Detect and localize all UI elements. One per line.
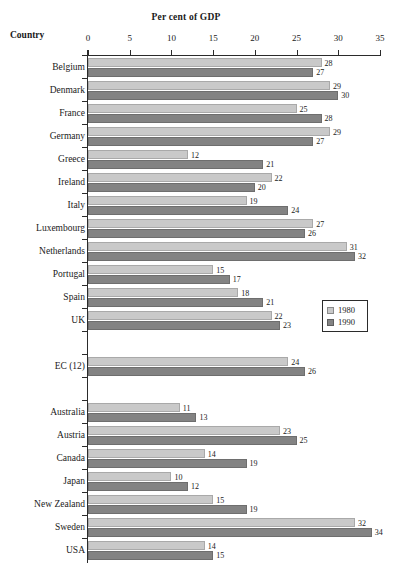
bar-1980 <box>88 403 180 412</box>
bar-1990 <box>88 482 188 491</box>
y-tick-mark <box>82 239 88 240</box>
category-label: Ireland <box>58 177 85 187</box>
x-tick-mark <box>297 50 298 56</box>
bar-1990 <box>88 114 322 123</box>
category-label: Denmark <box>50 85 85 95</box>
bar-value-label: 26 <box>308 367 316 376</box>
bar-1980 <box>88 311 272 320</box>
x-tick-label: 15 <box>209 33 218 43</box>
bar-1990 <box>88 459 247 468</box>
x-tick-label: 10 <box>167 33 176 43</box>
bar-value-label: 22 <box>275 174 283 183</box>
y-tick-mark <box>82 262 88 263</box>
category-label: Italy <box>68 200 85 210</box>
y-tick-mark <box>82 354 88 355</box>
category-label: Netherlands <box>39 246 85 256</box>
x-tick-mark <box>88 50 89 56</box>
bar-1990 <box>88 413 196 422</box>
y-tick-mark <box>82 446 88 447</box>
y-tick-mark <box>82 331 88 332</box>
bar-value-label: 21 <box>266 160 274 169</box>
x-tick-label: 5 <box>127 33 132 43</box>
y-tick-mark <box>82 170 88 171</box>
category-label: Germany <box>50 131 85 141</box>
bar-1980 <box>88 81 330 90</box>
legend-swatch-1990-icon <box>327 319 334 326</box>
category-label: Greece <box>58 154 85 164</box>
bar-1980 <box>88 150 188 159</box>
x-tick-mark <box>380 50 381 56</box>
legend-label-1980: 1980 <box>338 306 355 315</box>
y-tick-mark <box>82 78 88 79</box>
y-tick-mark <box>82 285 88 286</box>
y-tick-mark <box>82 308 88 309</box>
bar-value-label: 19 <box>250 197 258 206</box>
y-tick-mark <box>82 469 88 470</box>
bar-value-label: 18 <box>241 289 249 298</box>
bar-1980 <box>88 104 297 113</box>
bar-1980 <box>88 219 313 228</box>
bar-value-label: 20 <box>258 183 266 192</box>
bar-1990 <box>88 528 372 537</box>
bar-1990 <box>88 298 263 307</box>
bar-value-label: 29 <box>333 128 341 137</box>
y-tick-mark <box>82 377 88 378</box>
chart-title: Per cent of GDP <box>0 12 372 22</box>
bar-1980 <box>88 127 330 136</box>
bar-1990 <box>88 68 313 77</box>
bar-value-label: 34 <box>375 528 383 537</box>
chart-page: Per cent of GDP Country 05101520253035 B… <box>0 0 401 568</box>
bar-1980 <box>88 472 171 481</box>
category-label: Sweden <box>55 522 85 532</box>
category-label: France <box>59 108 85 118</box>
category-label: Canada <box>57 453 86 463</box>
bar-1990 <box>88 229 305 238</box>
bar-1980 <box>88 265 213 274</box>
x-tick-mark <box>213 50 214 56</box>
y-tick-mark <box>82 423 88 424</box>
y-tick-mark <box>82 492 88 493</box>
category-label: Luxembourg <box>36 223 85 233</box>
bar-1980 <box>88 58 322 67</box>
bar-value-label: 13 <box>199 413 207 422</box>
y-tick-mark <box>82 538 88 539</box>
category-label: Australia <box>50 407 85 417</box>
x-tick-mark <box>338 50 339 56</box>
x-axis-line <box>88 55 380 56</box>
legend: 1980 1990 <box>322 300 368 332</box>
legend-item-1990: 1990 <box>327 316 367 328</box>
bar-1980 <box>88 518 355 527</box>
category-label: USA <box>66 545 85 555</box>
legend-item-1980: 1980 <box>327 304 367 316</box>
y-tick-mark <box>82 101 88 102</box>
bar-1980 <box>88 449 205 458</box>
category-label: UK <box>71 315 85 325</box>
bar-value-label: 15 <box>216 551 224 560</box>
bar-1990 <box>88 551 213 560</box>
x-tick-mark <box>130 50 131 56</box>
y-tick-mark <box>82 515 88 516</box>
bar-value-label: 25 <box>300 436 308 445</box>
bar-value-label: 32 <box>358 519 366 528</box>
x-tick-mark <box>255 50 256 56</box>
bar-1990 <box>88 436 297 445</box>
x-tick-label: 35 <box>376 33 385 43</box>
bar-1990 <box>88 91 338 100</box>
category-label: New Zealand <box>34 499 85 509</box>
bar-1980 <box>88 426 280 435</box>
bar-value-label: 30 <box>341 91 349 100</box>
x-tick-label: 30 <box>334 33 343 43</box>
bar-value-label: 26 <box>308 229 316 238</box>
category-label: Austria <box>57 430 85 440</box>
legend-label-1990: 1990 <box>338 318 355 327</box>
x-tick-label: 0 <box>86 33 91 43</box>
bar-value-label: 32 <box>358 252 366 261</box>
x-tick-label: 20 <box>250 33 259 43</box>
bar-value-label: 31 <box>350 243 358 252</box>
y-tick-mark <box>82 55 88 56</box>
country-axis-label: Country <box>10 30 44 40</box>
bar-value-label: 10 <box>174 473 182 482</box>
legend-swatch-1980-icon <box>327 307 334 314</box>
bar-value-label: 17 <box>233 275 241 284</box>
bar-1990 <box>88 137 313 146</box>
